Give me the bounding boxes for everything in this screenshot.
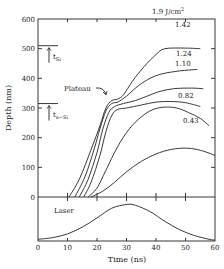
x-tick-label: 40 bbox=[152, 244, 161, 252]
y-tick-label: 100 bbox=[22, 164, 35, 172]
t-asi-label: ta−Si bbox=[53, 111, 68, 120]
x-tick-label: 60 bbox=[211, 244, 220, 252]
y-tick-label: 600 bbox=[22, 16, 35, 24]
series-line bbox=[79, 88, 203, 197]
x-tick-label: 30 bbox=[122, 244, 131, 252]
series-label: 1.9 J/cm2 bbox=[152, 6, 184, 16]
series-label: 1.10 bbox=[175, 60, 191, 68]
t-si-label: tSi bbox=[53, 53, 61, 62]
t-asi-sub: a−Si bbox=[56, 114, 69, 120]
series-label: 1.24 bbox=[176, 50, 192, 58]
y-tick-label: 300 bbox=[22, 105, 35, 113]
y-tick-label: 0 bbox=[31, 194, 35, 202]
x-tick-label: 50 bbox=[181, 244, 190, 252]
t-si-sub: Si bbox=[56, 56, 61, 62]
series-label: 1.42 bbox=[175, 21, 191, 29]
y-axis-title: Depth (nm) bbox=[4, 85, 13, 131]
chart: 0100200300400500600 0102030405060 1.9 J/… bbox=[0, 0, 224, 269]
series-label-superscript: 2 bbox=[181, 6, 184, 12]
x-tick-label: 10 bbox=[63, 244, 72, 252]
series-line bbox=[91, 148, 215, 197]
x-axis-title: Time (ns) bbox=[108, 255, 146, 264]
series-label: 0.82 bbox=[178, 92, 194, 100]
x-tick-label: 0 bbox=[36, 244, 40, 252]
y-tick-label: 200 bbox=[22, 134, 35, 142]
y-tick-label: 500 bbox=[22, 45, 35, 53]
x-tick-label: 20 bbox=[93, 244, 102, 252]
t-asi-marker: ta−Si bbox=[38, 104, 68, 121]
series-label: 0.43 bbox=[183, 117, 199, 125]
laser-label: Laser bbox=[54, 207, 75, 215]
y-tick-label: 400 bbox=[22, 75, 35, 83]
plateau-label: Plateau bbox=[64, 85, 91, 93]
